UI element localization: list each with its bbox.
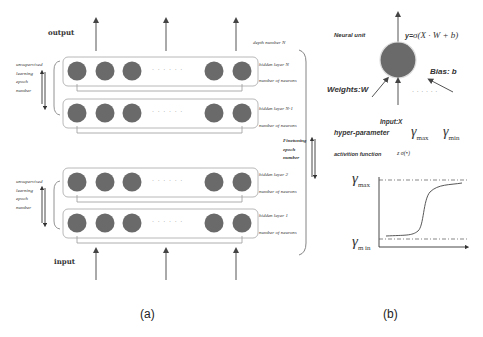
- label-line: epoch: [16, 78, 42, 87]
- ellipsis: · · · · · ·: [152, 66, 183, 72]
- layer-box-n-minus-1: [63, 99, 258, 133]
- layer-neurons-label: number of neurons: [259, 78, 297, 83]
- layer-name: hidden layer N-1: [259, 106, 293, 111]
- hyper-parameter-label: hyper-parameter: [334, 129, 389, 136]
- diagram-graphics: [0, 0, 483, 337]
- label-line: number: [16, 204, 42, 213]
- layer-neurons-label: number of neurons: [259, 230, 297, 235]
- activation-function-label: activition function: [334, 151, 381, 157]
- label-line: unsupervised: [16, 178, 42, 187]
- layer-name: hidden layer 1: [259, 213, 288, 218]
- layer-box-n: [63, 57, 258, 91]
- plot-ymin-label: γm in: [352, 233, 371, 252]
- depth-number-label: depth number N: [253, 40, 285, 45]
- neural-unit-label: Neural unit: [334, 32, 365, 38]
- bracket-top: [54, 61, 60, 115]
- formula-y: y=: [405, 32, 413, 39]
- label-line: epoch: [283, 146, 306, 155]
- layer-neurons-label: number of neurons: [259, 189, 297, 194]
- ellipsis: · · · · · ·: [152, 218, 183, 224]
- ellipsis: · · · · · ·: [152, 108, 183, 114]
- layer-name: hidden layer 2: [259, 172, 288, 177]
- label-line: Finetuning: [283, 137, 306, 146]
- label-line: number: [283, 154, 306, 163]
- output-arrows: [96, 20, 236, 51]
- layer-box-2: [63, 168, 258, 202]
- output-label: output: [48, 28, 74, 37]
- layer-neurons-label: number of neurons: [259, 123, 297, 128]
- layer-box-1: [63, 209, 258, 243]
- input-label: input: [54, 257, 75, 266]
- label-line: unsupervised: [16, 61, 42, 70]
- input-arrows: [96, 250, 236, 280]
- caption-a: (a): [140, 307, 155, 321]
- layer-name: hidden layer N: [259, 62, 289, 67]
- unsupervised-epoch-label-bottom: unsupervised learning epoch number: [16, 178, 42, 212]
- weights-label: Weights:W: [327, 85, 368, 94]
- activation-plot: [379, 177, 467, 247]
- gamma-sub: m in: [358, 244, 371, 252]
- gamma-sub: max: [358, 181, 370, 189]
- inputs-ellipsis: · · · · · ·: [412, 88, 438, 94]
- plot-ymax-label: γmax: [352, 170, 370, 189]
- bracket-bottom: [54, 181, 60, 229]
- unsupervised-epoch-label-top: unsupervised learning epoch number: [16, 61, 42, 95]
- gamma-max-param: γmax: [411, 124, 429, 142]
- caption-b: (b): [383, 307, 398, 321]
- finetuning-epoch-label: Finetuning epoch number: [283, 137, 306, 163]
- activation-symbol: z σ(•): [397, 150, 410, 156]
- label-line: learning: [16, 187, 42, 196]
- label-line: number: [16, 87, 42, 96]
- label-line: epoch: [16, 195, 42, 204]
- neural-unit-circle: [380, 42, 416, 78]
- label-line: learning: [16, 70, 42, 79]
- gamma-sub: max: [417, 134, 429, 142]
- bias-label: Bias: b: [430, 67, 457, 76]
- input-x-label: Input:X: [380, 118, 402, 125]
- output-formula: y=σ(X · W + b): [405, 24, 458, 42]
- gamma-min-param: γmin: [443, 124, 459, 142]
- gamma-sub: min: [449, 134, 460, 142]
- formula-rhs: σ(X · W + b): [413, 30, 458, 40]
- ellipsis: · · · · · ·: [152, 177, 183, 183]
